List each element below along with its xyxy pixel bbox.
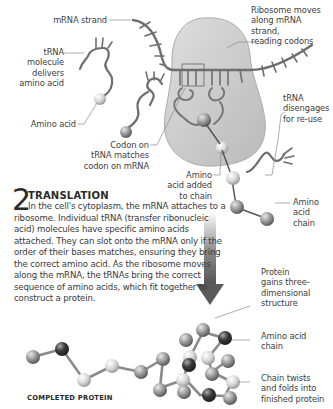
body-paragraph: In the cell's cytoplasm, the mRNA attach… [14,201,226,303]
label-line: acid [293,207,327,217]
trna-delivering [80,38,112,96]
label-trna-delivers: tRNA molecule delivers amino acid [10,47,64,89]
label-amino-chain-bottom: Amino acid chain [261,331,327,352]
label-chain-twists: Chain twists and folds into finished pro… [261,373,331,404]
label-line: tRNA [10,47,64,57]
completed-protein [33,332,232,396]
label-line: codon on mRNA [75,161,149,171]
amino-acid-sphere [94,93,106,105]
step-title: TRANSLATION [28,190,109,201]
label-line: Amino acid [261,331,327,341]
label-line: dimensional [261,288,327,298]
label-trna-disengages: tRNA disengages for re-use [283,93,333,124]
label-protein-3d: Protein gains three- dimensional structu… [261,267,327,309]
label-line: Ribosome moves [251,5,331,15]
step-body: In the cell's cytoplasm, the mRNA attach… [14,201,226,305]
label-line: finished protein [261,394,331,404]
label-line: Amino [150,170,212,180]
label-line: molecule [10,57,64,67]
label-line: chain [293,218,327,228]
label-line: tRNA [283,93,333,103]
label-line: delivers [10,68,64,78]
label-amino-added: Amino acid added to chain [150,170,212,201]
label-line: to chain [150,191,212,201]
label-codon-match: Codon on tRNA matches codon on mRNA [75,140,149,171]
caption-completed-protein: COMPLETED PROTEIN [27,394,113,402]
label-line: Amino [293,197,327,207]
label-line: and folds into [261,383,331,393]
label-line: tRNA matches [75,150,149,160]
label-line: for re-use [283,114,333,124]
label-line: along mRNA strand, [251,15,331,36]
label-line: chain [261,341,327,351]
label-line: Protein [261,267,327,277]
label-line: structure [261,298,327,308]
label-line: disengages [283,103,333,113]
label-mrna-strand: mRNA strand [45,15,107,25]
label-line: acid added [150,180,212,190]
label-amino-chain-top: Amino acid chain [293,197,327,228]
label-line: Codon on [75,140,149,150]
label-line: reading codons [251,36,331,46]
label-line: gains three- [261,277,327,287]
label-line: Chain twists [261,373,331,383]
label-ribosome: Ribosome moves along mRNA strand, readin… [251,5,331,47]
label-line: amino acid [10,78,64,88]
label-amino-acid: Amino acid [20,119,76,129]
